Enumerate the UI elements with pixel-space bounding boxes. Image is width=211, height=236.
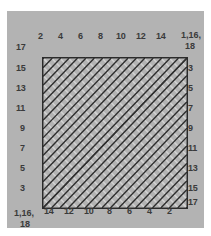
bottom-tick-label-1: 12 [64,206,74,216]
top-tick-label-3: 8 [98,31,103,41]
right-tick-label-5: 13 [188,163,198,173]
figure-panel: 2 4 6 8 10 12 14 14 12 10 8 6 4 2 17 15 … [7,11,204,228]
string-art-plot [42,57,188,209]
bottom-tick-label-6: 2 [167,206,172,216]
string-art-svg [42,57,188,209]
left-tick-label-2: 13 [16,83,26,93]
left-tick-label-0: 17 [16,42,26,52]
top-tick-label-5: 12 [136,31,146,41]
right-tick-label-4: 11 [188,143,197,153]
left-tick-label-1: 15 [16,63,26,73]
right-tick-label-0: 3 [188,63,193,73]
right-tick-label-6: 15 [188,183,198,193]
corner-label-top-right-line2: 18 [185,41,195,51]
corner-label-bottom-left-line2: 18 [20,219,30,229]
right-tick-label-1: 5 [188,83,193,93]
figure-canvas: 2 4 6 8 10 12 14 14 12 10 8 6 4 2 17 15 … [0,0,211,236]
corner-label-top-right-line1: 1,16, [181,30,201,40]
top-tick-label-4: 10 [116,31,126,41]
left-tick-label-6: 5 [20,163,25,173]
dark-chord-group [44,59,187,208]
top-tick-label-2: 6 [78,31,83,41]
left-tick-label-4: 9 [20,123,25,133]
bottom-tick-label-4: 6 [127,206,132,216]
corner-label-bottom-left-line1: 1,16, [14,208,34,218]
top-tick-label-1: 4 [58,31,63,41]
left-tick-label-5: 7 [20,143,25,153]
bottom-tick-label-5: 4 [147,206,152,216]
bottom-tick-label-0: 14 [44,206,54,216]
bottom-tick-label-2: 10 [84,206,94,216]
right-tick-label-3: 9 [188,123,193,133]
left-tick-label-3: 11 [16,103,25,113]
right-tick-label-7: 17 [188,197,198,207]
top-tick-label-0: 2 [38,31,43,41]
top-tick-label-6: 14 [156,31,166,41]
bottom-tick-label-3: 8 [107,206,112,216]
right-tick-label-2: 7 [188,103,193,113]
left-tick-label-7: 3 [20,183,25,193]
